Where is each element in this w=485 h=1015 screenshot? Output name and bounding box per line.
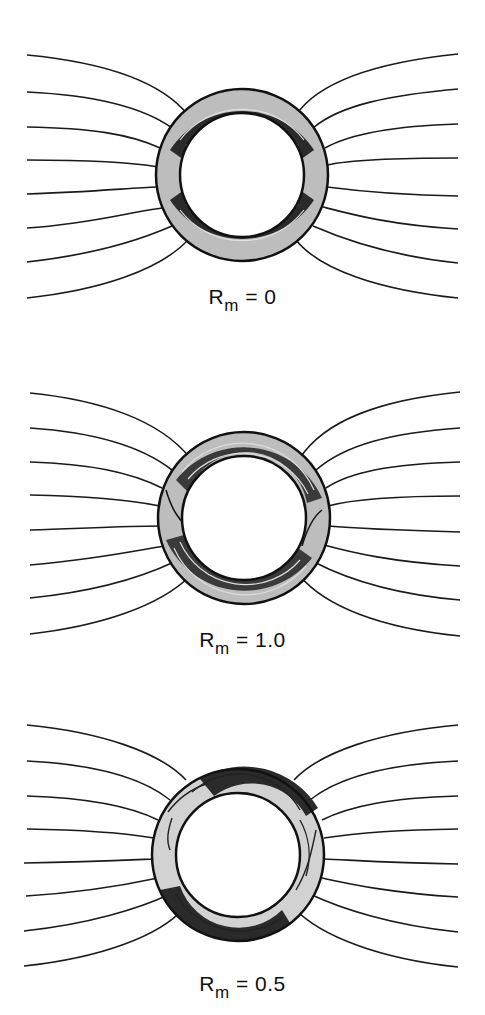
label-value: = 0.5 [230, 972, 286, 995]
caption-rm-1-0: Rm = 1.0 [0, 628, 485, 652]
label-value: = 1.0 [230, 628, 286, 651]
label-r: R [209, 285, 225, 308]
label-value: = 0 [239, 285, 277, 308]
caption-rm-0-5: Rm = 0.5 [0, 972, 485, 996]
label-subscript-m: m [224, 296, 239, 315]
panel-rm-1-0: Rm = 1.0 [0, 340, 485, 680]
label-r: R [199, 972, 215, 995]
conducting-shell [158, 432, 330, 604]
conducting-shell [156, 89, 328, 261]
caption-rm-0: Rm = 0 [0, 285, 485, 309]
label-subscript-m: m [215, 639, 230, 658]
conducting-shell [152, 767, 324, 941]
label-r: R [199, 628, 215, 651]
panel-rm-0: Rm = 0 [0, 0, 485, 340]
label-subscript-m: m [215, 983, 230, 1002]
field-diagram-rm-0-5 [0, 680, 485, 1015]
panel-rm-0-5: Rm = 0.5 [0, 680, 485, 1015]
